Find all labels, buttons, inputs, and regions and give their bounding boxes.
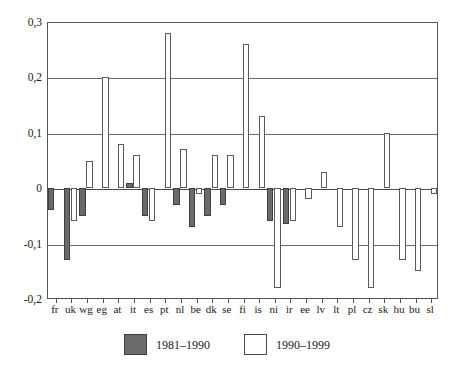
legend-swatch-icon <box>244 334 267 355</box>
x-axis-tick-label: be <box>190 303 200 316</box>
bar <box>204 188 210 216</box>
bar-group <box>110 22 126 299</box>
bar <box>337 188 343 227</box>
bar-group <box>125 22 141 299</box>
bar <box>259 116 265 188</box>
bar <box>305 188 311 199</box>
bar-group <box>78 22 94 299</box>
y-axis-tick-label: 0,3 <box>28 17 42 28</box>
legend-label: 1990–1999 <box>276 339 330 351</box>
x-axis-tick-label: uk <box>65 303 76 316</box>
bar <box>243 44 249 188</box>
bar-group <box>360 22 376 299</box>
bar <box>142 188 148 216</box>
x-axis-tick-label: ir <box>286 303 293 316</box>
bar <box>267 188 273 221</box>
bar-group <box>94 22 110 299</box>
x-axis: frukwgegatitesptnlbedksefiisniireelvltpl… <box>47 303 438 319</box>
chart-legend: 1981–1990 1990–1999 <box>0 334 454 355</box>
x-axis-tick-label: es <box>144 303 153 316</box>
bar <box>64 188 70 260</box>
bar <box>274 188 280 288</box>
x-axis-tick-label: sl <box>427 303 434 316</box>
x-axis-tick-label: se <box>222 303 231 316</box>
bar <box>118 144 124 188</box>
x-axis-tick-label: wg <box>79 303 92 316</box>
bar-group <box>297 22 313 299</box>
x-axis-tick-label: lv <box>316 303 325 316</box>
x-axis-tick-label: nl <box>176 303 185 316</box>
bar <box>415 188 421 271</box>
x-axis-tick-label: bu <box>409 303 420 316</box>
bar <box>180 149 186 188</box>
bar-group <box>63 22 79 299</box>
bar <box>173 188 179 205</box>
bar-group <box>266 22 282 299</box>
bar <box>283 188 289 224</box>
x-axis-tick-label: ee <box>300 303 310 316</box>
bar <box>220 188 226 205</box>
x-axis-tick-label: is <box>254 303 261 316</box>
bar <box>290 188 296 221</box>
x-axis-tick-label: cz <box>363 303 373 316</box>
y-axis-tick-label: 0 <box>36 183 42 194</box>
bar <box>352 188 358 260</box>
x-axis-tick-label: fi <box>239 303 246 316</box>
bar <box>431 188 437 194</box>
bar <box>196 188 202 194</box>
bar <box>399 188 405 260</box>
bar-group <box>313 22 329 299</box>
bars-layer <box>47 22 438 299</box>
x-axis-tick-label: sk <box>378 303 388 316</box>
bar-group <box>344 22 360 299</box>
y-axis-tick-label: -0,2 <box>24 294 42 305</box>
x-axis-tick-label: eg <box>97 303 107 316</box>
bar <box>126 183 132 189</box>
bar-group <box>235 22 251 299</box>
bar-group <box>375 22 391 299</box>
bar <box>79 188 85 216</box>
bar-group <box>219 22 235 299</box>
bar <box>165 33 171 188</box>
bar-group <box>282 22 298 299</box>
bar-group <box>422 22 438 299</box>
bar <box>102 77 108 188</box>
bar-group <box>188 22 204 299</box>
bar-group <box>250 22 266 299</box>
bar-group <box>329 22 345 299</box>
legend-swatch-icon <box>124 334 147 355</box>
bar <box>86 161 92 189</box>
x-axis-tick-label: dk <box>206 303 217 316</box>
x-axis-tick-label: pt <box>160 303 169 316</box>
legend-item-1981-1990: 1981–1990 <box>124 334 210 355</box>
bar <box>189 188 195 227</box>
x-axis-tick-label: ni <box>269 303 278 316</box>
legend-label: 1981–1990 <box>156 339 210 351</box>
x-axis-tick-label: at <box>113 303 121 316</box>
bar <box>368 188 374 288</box>
bar <box>149 188 155 221</box>
y-axis-tick-label: 0,1 <box>28 127 42 138</box>
x-axis-tick-label: pl <box>348 303 357 316</box>
bar-group <box>407 22 423 299</box>
bar-group <box>172 22 188 299</box>
x-axis-tick-label: lt <box>333 303 339 316</box>
bar <box>71 188 77 221</box>
bar <box>384 133 390 188</box>
bar-chart: 0,30,20,10-0,1-0,2 frukwgegatitesptnlbed… <box>0 0 454 380</box>
bar <box>48 188 54 210</box>
bar-group <box>391 22 407 299</box>
y-axis: 0,30,20,10-0,1-0,2 <box>0 0 47 380</box>
bar-group <box>156 22 172 299</box>
x-axis-tick-label: hu <box>393 303 404 316</box>
x-axis-tick-label: it <box>130 303 136 316</box>
bar-group <box>203 22 219 299</box>
bar <box>227 155 233 188</box>
bar <box>133 155 139 188</box>
bar <box>321 172 327 189</box>
x-axis-tick-label: fr <box>51 303 58 316</box>
bar-group <box>47 22 63 299</box>
y-axis-tick-label: -0,1 <box>24 238 42 249</box>
bar <box>212 155 218 188</box>
bar-group <box>141 22 157 299</box>
